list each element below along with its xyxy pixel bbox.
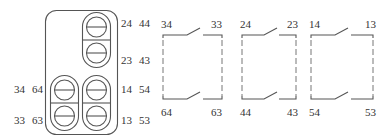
contact-label: 24 bbox=[240, 18, 252, 30]
contact-block-diagram: 34 64 33 63 24 44 23 43 14 54 13 53 34 3… bbox=[0, 0, 389, 139]
screw-icon bbox=[55, 80, 75, 100]
terminal-label: 53 bbox=[139, 114, 151, 126]
switch-contact-icon bbox=[311, 92, 348, 99]
terminal-label: 23 bbox=[121, 54, 133, 66]
terminal-label: 43 bbox=[139, 54, 151, 66]
contact-label: 14 bbox=[309, 18, 321, 30]
contact-group-2: 24 23 44 43 bbox=[240, 18, 299, 118]
terminal-label: 24 bbox=[121, 17, 133, 29]
screw-icon bbox=[55, 106, 75, 126]
contact-label: 63 bbox=[211, 106, 223, 118]
terminal-label: 33 bbox=[14, 114, 26, 126]
contact-label: 43 bbox=[287, 106, 299, 118]
terminal-label: 13 bbox=[121, 114, 133, 126]
terminal-label: 14 bbox=[121, 83, 133, 95]
terminal-label: 54 bbox=[139, 83, 151, 95]
screw-icon bbox=[87, 80, 107, 100]
contact-group-1: 34 33 64 63 bbox=[161, 18, 223, 118]
switch-contact-icon bbox=[242, 92, 277, 99]
terminal-label: 34 bbox=[14, 83, 26, 95]
contact-label: 64 bbox=[161, 106, 173, 118]
contact-label: 34 bbox=[161, 18, 173, 30]
contact-label: 23 bbox=[287, 18, 299, 30]
screw-icon bbox=[87, 106, 107, 126]
terminal-pair-24-23 bbox=[83, 13, 111, 68]
contact-label: 13 bbox=[365, 18, 377, 30]
contact-label: 54 bbox=[309, 106, 321, 118]
terminal-block bbox=[46, 11, 118, 135]
screw-icon bbox=[87, 17, 107, 37]
contact-label: 53 bbox=[365, 106, 377, 118]
terminal-pair-34-33 bbox=[51, 76, 79, 131]
terminal-label: 64 bbox=[32, 83, 44, 95]
screw-icon bbox=[87, 43, 107, 63]
terminal-label: 44 bbox=[139, 17, 151, 29]
contact-label: 44 bbox=[240, 106, 252, 118]
terminal-label: 63 bbox=[32, 114, 44, 126]
terminal-pair-14-13 bbox=[83, 76, 111, 131]
switch-contact-icon bbox=[163, 92, 200, 99]
contact-label: 33 bbox=[211, 18, 223, 30]
contact-group-3: 14 13 54 53 bbox=[309, 18, 377, 118]
